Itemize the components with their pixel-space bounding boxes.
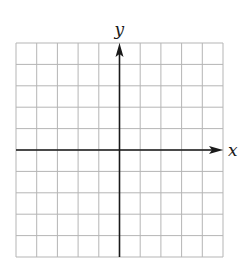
axes xyxy=(16,43,223,257)
coordinate-grid: x y xyxy=(0,0,251,271)
y-axis-label: y xyxy=(114,19,125,39)
x-axis-label: x xyxy=(228,140,238,160)
